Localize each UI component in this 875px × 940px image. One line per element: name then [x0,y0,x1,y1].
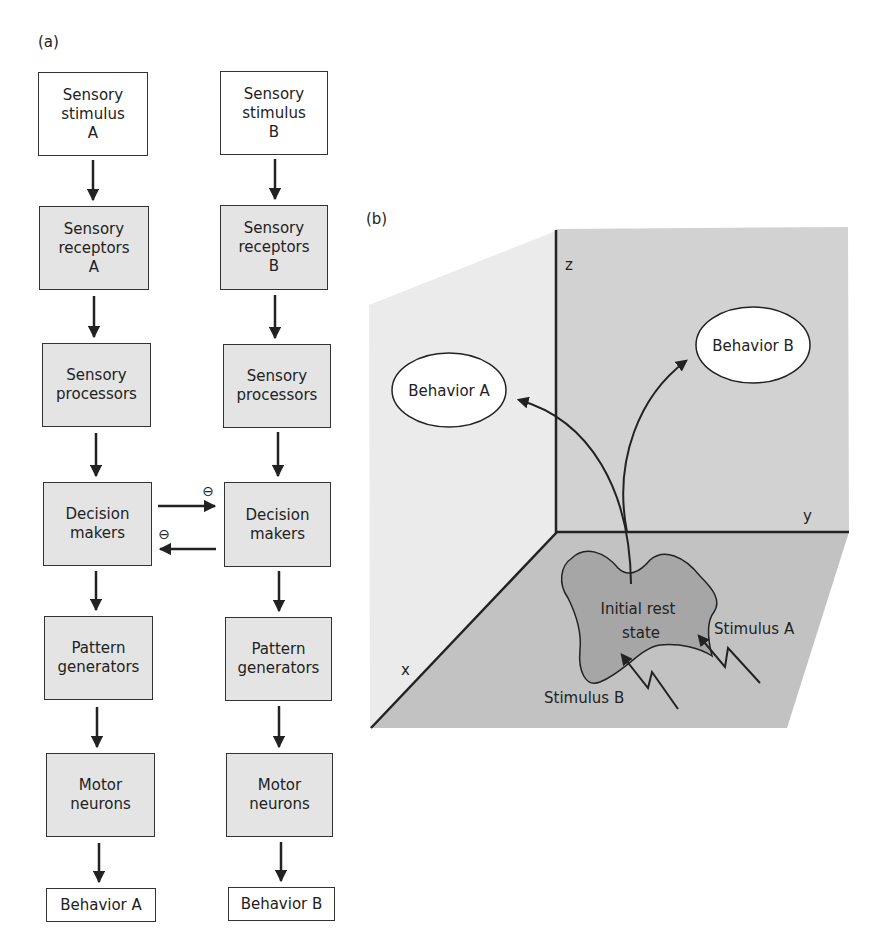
z-axis-label: z [565,256,573,274]
y-axis-label: y [803,507,812,525]
stimulus-a-label: Stimulus A [714,620,795,638]
rest-state-label-line2: state [622,624,660,642]
behavior-b-label: Behavior B [712,337,794,355]
stimulus-b-label: Stimulus B [544,689,624,707]
back-wall-plane [556,227,849,532]
behavior-a-label: Behavior A [408,382,490,400]
rest-state-label-line1: Initial rest [600,600,675,618]
state-space-diagram: z y x Initial rest state Behavior A Beha… [0,0,875,940]
x-axis-label: x [401,661,410,679]
